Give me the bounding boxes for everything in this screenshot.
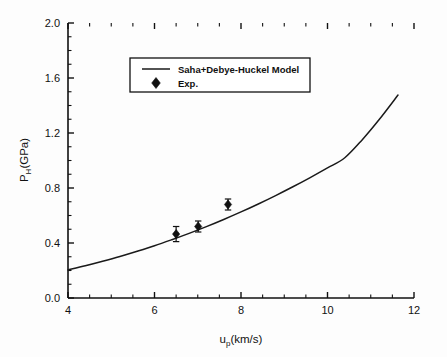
figure-container: 4681012 0.00.40.81.21.62.0 Saha+Debye-Hu… — [0, 0, 447, 357]
x-tick-label: 6 — [151, 304, 157, 316]
x-tick-label: 12 — [408, 304, 420, 316]
data-point-group — [224, 199, 231, 210]
chart-canvas: 4681012 0.00.40.81.21.62.0 Saha+Debye-Hu… — [0, 0, 447, 357]
y-tick-label: 0.0 — [45, 292, 60, 304]
x-axis-title-units: (km/s) — [230, 333, 262, 345]
y-tick-label: 0.4 — [45, 237, 60, 249]
y-tick-label: 1.6 — [45, 72, 60, 84]
y-axis-tick-labels: 0.00.40.81.21.62.0 — [45, 17, 60, 304]
x-tick-label: 10 — [321, 304, 333, 316]
y-axis-ticks — [68, 23, 74, 298]
legend: Saha+Debye-Huckel Model Exp. — [130, 58, 310, 92]
x-tick-label: 4 — [65, 304, 71, 316]
y-tick-label: 2.0 — [45, 17, 60, 29]
y-axis-title-units: (GPa) — [18, 138, 30, 169]
y-tick-label: 1.2 — [45, 127, 60, 139]
y-tick-label: 0.8 — [45, 182, 60, 194]
marker-diamond — [195, 222, 202, 231]
marker-diamond — [224, 200, 231, 209]
svg-text:PH(GPa): PH(GPa) — [18, 138, 33, 182]
legend-label-exp: Exp. — [178, 78, 198, 89]
x-axis-tick-labels: 4681012 — [65, 304, 420, 316]
svg-text:up(km/s): up(km/s) — [220, 333, 263, 348]
model-curve-saha-debye-huckel — [68, 95, 398, 270]
x-axis-title: up(km/s) — [220, 333, 263, 348]
legend-label-model: Saha+Debye-Huckel Model — [178, 64, 299, 75]
x-tick-label: 8 — [238, 304, 244, 316]
y-axis-title: PH(GPa) — [18, 138, 33, 182]
